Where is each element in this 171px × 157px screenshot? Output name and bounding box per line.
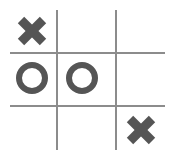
cell-r2-c2[interactable]	[58, 55, 106, 101]
cell-r2-c1[interactable]	[8, 55, 56, 101]
x-mark-icon	[125, 114, 157, 146]
x-mark-icon	[16, 15, 48, 47]
o-mark-icon	[65, 61, 99, 95]
cell-r3-c2[interactable]	[58, 107, 106, 153]
cell-r1-c3[interactable]	[117, 8, 165, 54]
cell-r3-c3[interactable]	[117, 107, 165, 153]
cell-r2-c3[interactable]	[117, 55, 165, 101]
cell-r3-c1[interactable]	[8, 107, 56, 153]
cell-r1-c2[interactable]	[58, 8, 106, 54]
tic-tac-toe-board	[0, 0, 171, 157]
o-mark-icon	[15, 61, 49, 95]
cell-r1-c1[interactable]	[8, 8, 56, 54]
